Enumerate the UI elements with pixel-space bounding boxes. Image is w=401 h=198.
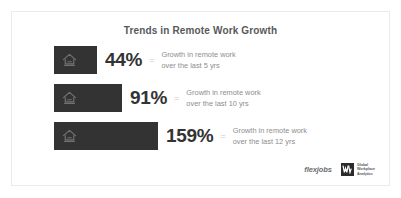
stat-description-line2: over the last 10 yrs bbox=[186, 98, 260, 109]
stat-description: Growth in remote work over the last 12 y… bbox=[233, 126, 307, 147]
page-title: Trends in Remote Work Growth bbox=[12, 25, 389, 36]
home-icon bbox=[61, 52, 78, 69]
stat-description-line2: over the last 12 yrs bbox=[233, 136, 307, 147]
stat-description-line1: Growth in remote work bbox=[186, 88, 260, 99]
equals-sign: = bbox=[220, 131, 225, 141]
stat-bar bbox=[54, 84, 122, 112]
stat-description-line2: over the last 5 yrs bbox=[161, 60, 235, 71]
flexjobs-logo: flexjobs bbox=[304, 165, 332, 174]
stat-description-line1: Growth in remote work bbox=[233, 126, 307, 137]
home-icon bbox=[61, 90, 78, 107]
stat-row: 159% = Growth in remote work over the la… bbox=[12, 120, 389, 152]
stat-value: 159% bbox=[166, 125, 213, 147]
stat-description: Growth in remote work over the last 10 y… bbox=[186, 88, 260, 109]
gwa-monogram-icon bbox=[341, 163, 354, 176]
gwa-wordmark: Global Workplace Analytics bbox=[357, 163, 375, 176]
stat-row: 44% = Growth in remote work over the las… bbox=[12, 44, 389, 76]
global-workplace-analytics-logo: Global Workplace Analytics bbox=[341, 163, 375, 176]
stat-bar bbox=[54, 122, 158, 150]
equals-sign: = bbox=[174, 93, 179, 103]
stat-bar bbox=[54, 46, 97, 74]
infographic-card: Trends in Remote Work Growth 44% = Growt… bbox=[11, 11, 390, 186]
stat-description-line1: Growth in remote work bbox=[161, 50, 235, 61]
stat-value: 91% bbox=[130, 87, 167, 109]
gwa-line-2: Workplace bbox=[357, 167, 375, 171]
footer-logos: flexjobs Global Workplace Analytics bbox=[304, 163, 375, 176]
home-icon bbox=[61, 128, 78, 145]
gwa-line-3: Analytics bbox=[357, 172, 375, 176]
equals-sign: = bbox=[149, 55, 154, 65]
stat-description: Growth in remote work over the last 5 yr… bbox=[161, 50, 235, 71]
stat-value: 44% bbox=[105, 49, 142, 71]
stat-row: 91% = Growth in remote work over the las… bbox=[12, 82, 389, 114]
